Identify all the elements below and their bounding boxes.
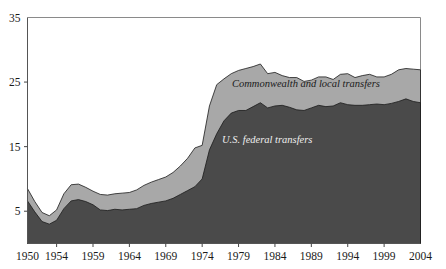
- y-tick-label: 35: [9, 12, 21, 24]
- series-label-federal: U.S. federal transfers: [222, 134, 312, 145]
- x-tick-label: 2004: [409, 250, 432, 262]
- x-tick-label: 1969: [154, 250, 177, 262]
- x-tick-label: 1984: [263, 250, 286, 262]
- area-us-federal-transfers: [28, 99, 421, 244]
- stacked-area-chart: 3525155 19501954195919641969197419791984…: [0, 0, 446, 269]
- x-tick-label: 1999: [373, 250, 396, 262]
- x-tick-label: 1994: [336, 250, 359, 262]
- y-tick-label: 25: [9, 76, 21, 88]
- x-tick-label: 1979: [227, 250, 250, 262]
- x-tick-label: 1950: [16, 250, 39, 262]
- x-axis-labels: 1950195419591964196919741979198419891994…: [16, 250, 432, 262]
- series-label-commonwealth: Commonwealth and local transfers: [232, 78, 380, 89]
- y-axis-labels: 3525155: [9, 12, 21, 218]
- x-tick-label: 1954: [45, 250, 68, 262]
- x-axis-ticks: [57, 244, 385, 248]
- x-tick-label: 1974: [191, 250, 214, 262]
- y-tick-label: 5: [15, 205, 21, 217]
- area-series-group: [28, 64, 421, 244]
- chart-canvas: 3525155 19501954195919641969197419791984…: [0, 0, 446, 269]
- y-axis-ticks: [24, 82, 28, 211]
- y-tick-label: 15: [9, 141, 21, 153]
- x-tick-label: 1989: [300, 250, 323, 262]
- x-tick-label: 1964: [118, 250, 141, 262]
- x-tick-label: 1959: [82, 250, 105, 262]
